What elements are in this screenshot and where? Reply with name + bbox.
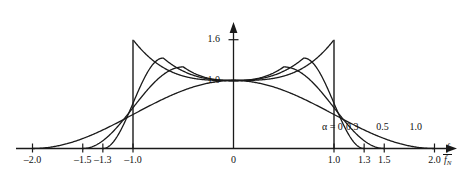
y-tick-label-1-0: 1.0 <box>200 75 220 85</box>
alpha-03-label: 0.3 <box>346 122 359 132</box>
y-tick-label-1-6: 1.6 <box>200 34 220 44</box>
alpha-0-label: α = 0 <box>322 122 343 132</box>
x-tick-label-1_5: 1.5 <box>378 155 391 165</box>
x-tick-label-1_3: 1.3 <box>358 155 371 165</box>
x-tick-label-0: 0 <box>231 155 236 165</box>
x-tick-label-_1_5: –1.5 <box>74 155 92 165</box>
alpha-05-label: 0.5 <box>376 122 389 132</box>
x-axis-label: f fN <box>443 143 452 167</box>
figure-container: 1.6 1.0 –2.0–1.5–1.3–1.001.01.31.52.0 α … <box>0 0 465 187</box>
x-tick-label-_1: –1.0 <box>124 155 142 165</box>
x-tick-label-_2: –2.0 <box>24 155 42 165</box>
x-tick-label-1: 1.0 <box>328 155 341 165</box>
x-tick-label-2: 2.0 <box>428 155 441 165</box>
x-axis-label-denominator-subscript: N <box>447 159 452 167</box>
axes-group <box>16 22 457 152</box>
alpha-10-label: 1.0 <box>409 122 422 132</box>
x-tick-label-_1_3: –1.3 <box>94 155 112 165</box>
